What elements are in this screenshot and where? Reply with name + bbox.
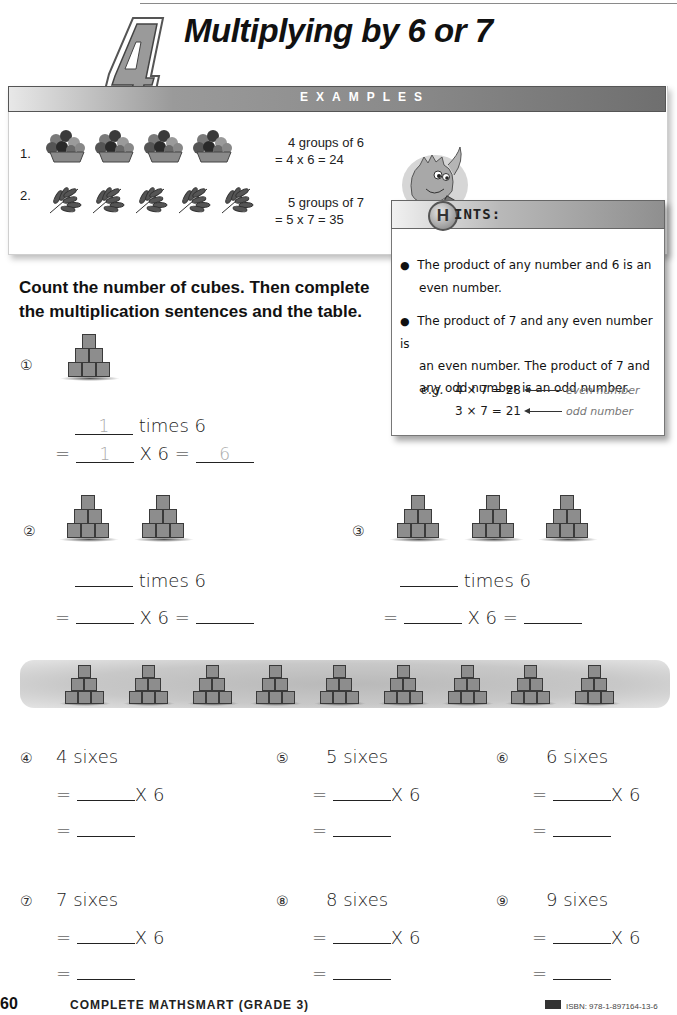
equals-sign: = <box>532 963 547 984</box>
instructions-line: the multiplication sentences and the tab… <box>19 300 369 324</box>
q6-label: 6 sixes <box>546 746 608 767</box>
bullet-icon: ● <box>400 315 410 328</box>
times-six-label: X 6 = <box>140 443 190 464</box>
q3-equation-row: = X 6 = <box>383 605 582 628</box>
q1-groups-input[interactable]: 1 <box>75 416 133 435</box>
equals-sign: = <box>56 963 71 984</box>
equals-sign: = <box>532 820 547 841</box>
q2-groups-input[interactable] <box>75 568 133 587</box>
q6-product-row: = <box>532 818 611 841</box>
question-number: ① <box>20 357 33 373</box>
arrow-line <box>528 411 562 412</box>
cube-pyramids <box>395 495 595 545</box>
q3-factor-input[interactable] <box>404 605 462 624</box>
q2-factor-input[interactable] <box>76 605 134 624</box>
q9-product-row: = <box>532 961 611 984</box>
q4-label: 4 sixes <box>56 746 118 767</box>
q8-product-row: = <box>312 961 391 984</box>
times-six-label: X 6 <box>391 927 421 948</box>
instructions: Count the number of cubes. Then complete… <box>19 276 369 324</box>
q1-times-row: 1 times 6 <box>75 415 206 436</box>
example-1-line1: 4 groups of 6 <box>288 134 364 151</box>
hint-text: The product of any number and 6 is an <box>417 258 651 272</box>
equals-sign: = <box>532 784 547 805</box>
equals-sign: = <box>56 784 71 805</box>
q6-factor-row: = X 6 <box>532 782 640 805</box>
q9-factor-row: = X 6 <box>532 925 640 948</box>
equals-sign: = <box>312 927 327 948</box>
eg-note-1: even number <box>566 384 639 397</box>
q8-factor-input[interactable] <box>333 925 391 944</box>
q7-factor-row: = X 6 <box>56 925 164 948</box>
hint-text: even number. <box>400 277 660 299</box>
q8-label: 8 sixes <box>326 889 388 910</box>
question-number: ⑤ <box>276 750 289 766</box>
question-number: ⑧ <box>276 893 289 909</box>
q3-groups-input[interactable] <box>400 568 458 587</box>
q6-product-input[interactable] <box>553 818 611 837</box>
example-2-line2: = 5 x 7 = 35 <box>275 211 344 228</box>
equals-sign: = <box>532 927 547 948</box>
q7-product-row: = <box>56 961 135 984</box>
q7-factor-input[interactable] <box>77 925 135 944</box>
question-number: ⑦ <box>20 893 33 909</box>
hint-item-1: ● The product of any number and 6 is an … <box>400 254 660 299</box>
eg-equation-2: 3 × 7 = 21 <box>455 404 521 418</box>
q8-product-input[interactable] <box>333 961 391 980</box>
q5-label: 5 sixes <box>326 746 388 767</box>
times-six-label: X 6 <box>611 784 641 805</box>
q7-product-input[interactable] <box>77 961 135 980</box>
book-title: COMPLETE MATHSMART (GRADE 3) <box>70 998 309 1012</box>
cube-pyramids <box>65 495 185 545</box>
question-number: ⑨ <box>496 893 509 909</box>
equals-sign: = <box>55 443 70 464</box>
q4-product-input[interactable] <box>77 818 135 837</box>
times-six-label: X 6 = <box>468 607 518 628</box>
times-label: times 6 <box>139 415 206 436</box>
q1-product-input[interactable]: 6 <box>196 444 254 463</box>
q5-product-input[interactable] <box>333 818 391 837</box>
hint-text: The product of 7 and any even number is <box>400 314 653 351</box>
q7-label: 7 sixes <box>56 889 118 910</box>
equals-sign: = <box>312 820 327 841</box>
times-six-label: X 6 <box>611 927 641 948</box>
flower-pots-image <box>44 130 244 164</box>
q5-factor-row: = X 6 <box>312 782 420 805</box>
times-six-label: X 6 <box>135 927 165 948</box>
example-number: 2. <box>20 188 31 203</box>
q2-product-input[interactable] <box>196 605 254 624</box>
equals-sign: = <box>55 607 70 628</box>
hint-text: an even number. The product of 7 and <box>400 355 665 377</box>
example-number: 1. <box>20 146 31 161</box>
q4-product-row: = <box>56 818 135 841</box>
eg-label: e.g. <box>421 383 443 397</box>
examples-header-label: EXAMPLES <box>300 90 430 104</box>
q9-product-input[interactable] <box>553 961 611 980</box>
arrow-line <box>528 390 562 391</box>
cube-pyramid <box>66 334 116 384</box>
q5-factor-input[interactable] <box>333 782 391 801</box>
equals-sign: = <box>312 784 327 805</box>
equals-sign: = <box>383 607 398 628</box>
q5-product-row: = <box>312 818 391 841</box>
q9-label: 9 sixes <box>546 889 608 910</box>
equals-sign: = <box>312 963 327 984</box>
example-1-line2: = 4 x 6 = 24 <box>275 151 344 168</box>
q2-times-row: times 6 <box>75 568 206 591</box>
publisher-logo-icon <box>545 1000 561 1009</box>
q6-factor-input[interactable] <box>553 782 611 801</box>
equals-sign: = <box>56 927 71 948</box>
question-number: ⑥ <box>496 750 509 766</box>
q4-factor-row: = X 6 <box>56 782 164 805</box>
q1-factor-input[interactable]: 1 <box>76 444 134 463</box>
question-number: ③ <box>352 523 365 539</box>
q4-factor-input[interactable] <box>77 782 135 801</box>
q9-factor-input[interactable] <box>553 925 611 944</box>
times-label: times 6 <box>464 570 531 591</box>
instructions-line: Count the number of cubes. Then complete <box>19 276 369 300</box>
times-six-label: X 6 <box>135 784 165 805</box>
q8-factor-row: = X 6 <box>312 925 420 948</box>
leaf-branches-image <box>48 185 263 215</box>
q3-product-input[interactable] <box>524 605 582 624</box>
isbn: ISBN: 978-1-897164-13-6 <box>566 1002 658 1011</box>
